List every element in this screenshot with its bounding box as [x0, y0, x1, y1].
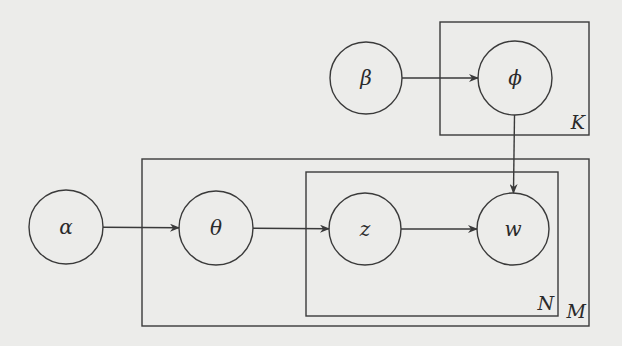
node-label: θ [210, 216, 222, 240]
node-z: z [329, 193, 401, 265]
plate-M: M [142, 159, 589, 326]
node-alpha: α [29, 190, 103, 264]
edge-phi-to-w [513, 115, 514, 193]
node-theta: θ [179, 191, 253, 265]
plate-diagram: KMN αθzwβϕ [0, 0, 622, 346]
node-label: α [59, 215, 73, 239]
node-w: w [477, 193, 549, 265]
plate-label: K [570, 111, 587, 133]
edges-layer [103, 78, 515, 229]
node-label: ϕ [508, 66, 522, 90]
plate-label: N [536, 292, 555, 314]
edge-theta-to-z [253, 228, 329, 229]
node-label: w [504, 217, 521, 241]
node-label: z [359, 217, 371, 241]
node-beta: β [330, 42, 402, 114]
node-phi: ϕ [478, 41, 552, 115]
plate-label: M [566, 300, 587, 322]
arrow-icon [103, 227, 179, 228]
nodes-layer: αθzwβϕ [29, 41, 552, 265]
plate-border [142, 159, 589, 326]
arrow-icon [513, 115, 514, 193]
edge-alpha-to-theta [103, 227, 179, 228]
node-label: β [359, 66, 372, 90]
arrow-icon [253, 228, 329, 229]
